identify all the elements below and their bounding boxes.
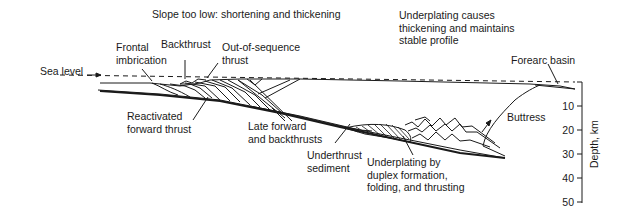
depth-tick-20: 20 xyxy=(552,124,574,136)
slope-note-label: Slope too low: shortening and thickening xyxy=(152,8,341,21)
backthrust-label: Backthrust xyxy=(161,38,211,51)
forearc-basin-label: Forearc basin xyxy=(511,54,575,67)
depth-tick-50: 50 xyxy=(552,196,574,208)
sea-level-label: Sea level xyxy=(40,65,83,78)
wedge-diagram: Slope too low: shortening and thickening… xyxy=(0,0,623,223)
underthrust-sediment-label: Underthrust sediment xyxy=(307,149,362,174)
buttress-label: Buttress xyxy=(507,111,546,124)
underplating-note-label: Underplating causes thickening and maint… xyxy=(399,9,515,47)
underplating-by-label: Underplating by duplex formation, foldin… xyxy=(367,156,464,194)
depth-tick-30: 30 xyxy=(552,148,574,160)
frontal-imbrication-label: Frontal imbrication xyxy=(116,41,167,66)
out-of-sequence-label: Out-of-sequence thrust xyxy=(222,41,300,66)
late-thrusts-label: Late forward and backthrusts xyxy=(248,120,322,145)
depth-tick-10: 10 xyxy=(552,100,574,112)
sea-level-line xyxy=(60,75,575,82)
reactivated-thrust-label: Reactivated forward thrust xyxy=(127,110,191,135)
depth-axis-title: Depth, km xyxy=(588,120,600,168)
depth-tick-40: 40 xyxy=(552,172,574,184)
